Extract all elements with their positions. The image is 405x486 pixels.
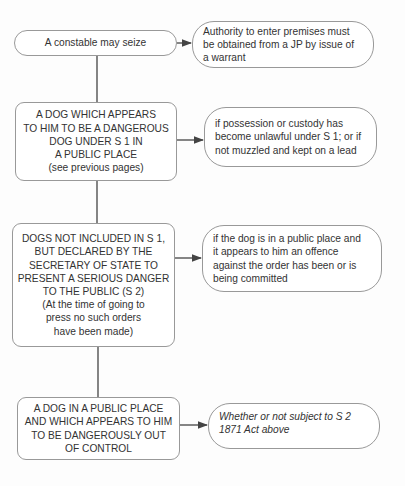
- node-text: A constable may seize: [45, 36, 146, 49]
- node-dogs-not-in-s1: DOGS NOT INCLUDED IN S 1, BUT DECLARED B…: [12, 223, 175, 347]
- note-text: if the dog is in a public place and it a…: [213, 232, 361, 285]
- node-text: DOGS NOT INCLUDED IN S 1, BUT DECLARED B…: [18, 232, 170, 338]
- node-text: A DOG WHICH APPEARS TO HIM TO BE A DANGE…: [23, 108, 169, 174]
- node-dangerous-dog-s1: A DOG WHICH APPEARS TO HIM TO BE A DANGE…: [15, 102, 177, 181]
- note-possession-unlawful: if possession or custody has become unla…: [204, 107, 377, 167]
- note-text: if possession or custody has become unla…: [215, 117, 361, 157]
- node-constable-may-seize: A constable may seize: [14, 30, 177, 56]
- note-offence-against-order: if the dog is in a public place and it a…: [202, 225, 382, 292]
- note-text: Whether or not subject to S 2 1871 Act a…: [219, 410, 351, 436]
- note-authority-to-enter: Authority to enter premises must be obta…: [192, 21, 374, 68]
- note-whether-or-not-s2: Whether or not subject to S 2 1871 Act a…: [208, 403, 380, 449]
- node-dangerously-out-of-control: A DOG IN A PUBLIC PLACE AND WHICH APPEAR…: [17, 397, 180, 460]
- node-text: A DOG IN A PUBLIC PLACE AND WHICH APPEAR…: [25, 402, 172, 455]
- note-text: Authority to enter premises must be obta…: [203, 25, 354, 65]
